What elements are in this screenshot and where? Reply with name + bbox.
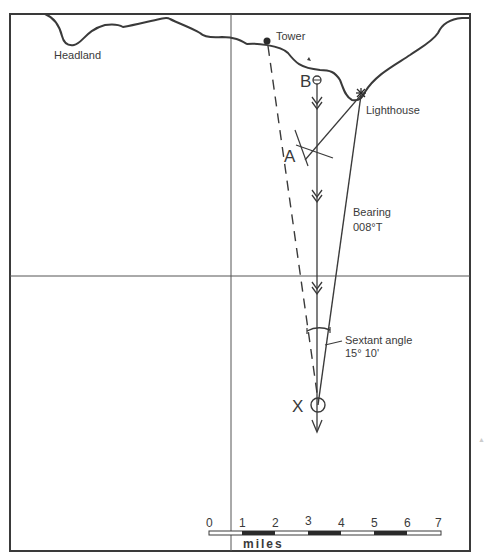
scale-tick-0: 0	[206, 516, 213, 530]
scale-tick-3: 3	[305, 514, 312, 528]
margin-smudge: ▲	[478, 436, 485, 443]
headland-label: Headland	[54, 49, 101, 61]
bearing-label: Bearing	[353, 206, 391, 218]
scale-tick-1: 1	[239, 516, 246, 530]
chart-diagram: Tower Headland Lighthouse B A Bearing 00…	[0, 0, 485, 560]
sextant-label: Sextant angle	[345, 334, 412, 346]
scale-tick-4: 4	[338, 516, 345, 530]
point-a-label: A	[284, 147, 296, 166]
point-b-label: B	[300, 72, 311, 91]
sextant-value: 15° 10'	[345, 347, 379, 359]
scale-tick-7: 7	[435, 516, 442, 530]
sextant-angle-arc	[307, 328, 330, 331]
tower-marker	[264, 38, 271, 45]
sextant-leader-line	[325, 341, 342, 345]
tower-label: Tower	[276, 30, 306, 42]
tower-transit-line	[268, 46, 318, 400]
scale-tick-5: 5	[371, 516, 378, 530]
coast-marker	[307, 57, 311, 61]
scale-tick-6: 6	[404, 516, 411, 530]
bearing-value: 008°T	[353, 221, 383, 233]
coastline	[45, 14, 470, 100]
scale-unit-label: miles	[243, 537, 284, 551]
scale-bar: 0 1 2 3 4 5 6 7 miles	[206, 514, 442, 551]
point-x-label: X	[292, 397, 303, 416]
map-frame	[10, 14, 470, 551]
lighthouse-label: Lighthouse	[366, 104, 420, 116]
scale-tick-2: 2	[272, 516, 279, 530]
